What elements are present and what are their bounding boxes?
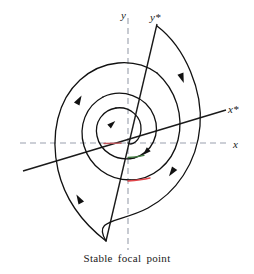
arrowhead-inner-upper	[107, 119, 117, 129]
x-axis-label: x	[233, 139, 238, 150]
figure-caption: Stable focal point	[0, 252, 254, 264]
arrowhead-outer-right	[177, 73, 186, 84]
y-star-axis-label: y*	[150, 12, 160, 23]
phase-portrait-figure: x y x* y* Stable focal point	[0, 0, 254, 274]
x-star-axis-label: x*	[228, 104, 238, 115]
phase-portrait-canvas	[0, 0, 254, 274]
spiral-outer-arc	[102, 26, 200, 241]
y-axis-label: y	[121, 10, 126, 21]
arrowhead-outer-lower-left	[74, 193, 84, 205]
arrowhead-outer-upper-left	[74, 94, 84, 106]
arrowhead-outer-lower-right	[166, 166, 177, 178]
highlight-segment-green-center	[128, 155, 144, 157]
